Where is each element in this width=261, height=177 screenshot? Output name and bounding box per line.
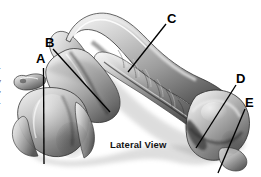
anatomical-figure: r y e r t A B C D E Lateral View <box>0 0 261 177</box>
label-d: D <box>236 72 245 85</box>
edge-fragment-4: r <box>0 99 9 111</box>
view-caption: Lateral View <box>110 140 166 150</box>
cropped-edge-text: r y e r t <box>0 64 9 122</box>
edge-fragment-1: r <box>0 64 9 76</box>
leader-line-a <box>44 68 45 164</box>
label-e: E <box>245 96 254 109</box>
edge-fragment-5: t <box>0 110 9 122</box>
label-a: A <box>36 52 45 65</box>
specimen-illustration <box>0 0 261 177</box>
label-c: C <box>167 12 176 25</box>
edge-fragment-3: e <box>0 87 9 99</box>
edge-fragment-2: y <box>0 76 9 88</box>
label-b: B <box>45 36 54 49</box>
